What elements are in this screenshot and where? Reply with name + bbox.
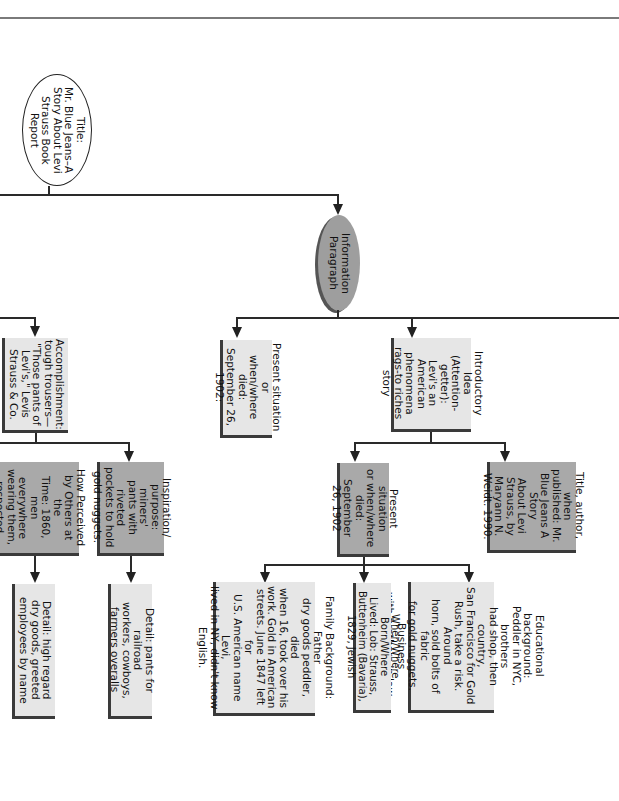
detail-high-regard-text: Detail: high regard dry goods, greeted e… (18, 597, 53, 704)
educational-background-box: Educational background: Peddler in NYC, … (408, 582, 494, 713)
connector (354, 442, 506, 444)
arrow-down-icon (232, 327, 242, 338)
introductory-idea-box: Introductory Idea (Attention-getter): Le… (391, 338, 471, 432)
present-situation-died-box: Present situation or when/where died: Se… (220, 340, 272, 438)
family-background-text: Family Background: Father dry goods pedd… (197, 585, 335, 710)
detail-railroad-text: Detail: pants for railroad workers, cowb… (109, 587, 155, 713)
inspiration-text: Inspiration/ purpose: miners' pants with… (92, 465, 173, 550)
present-situation-box-2: Present situation or when/where died: Se… (337, 463, 389, 557)
arrow-down-icon (500, 451, 510, 462)
inspiration-box: Inspiration/ purpose: miners' pants with… (97, 462, 164, 556)
connector (0, 442, 130, 444)
arrow-down-icon (407, 327, 417, 338)
arrow-down-icon (350, 451, 360, 462)
connector (0, 194, 339, 196)
detail-high-regard-box: Detail: high regard dry goods, greeted e… (12, 584, 55, 719)
detail-railroad-box: Detail: pants for railroad workers, cowb… (108, 584, 152, 719)
arrow-down-icon (30, 326, 40, 337)
page-top-rule (0, 17, 619, 19)
information-paragraph-oval: Information Paragraph (318, 215, 360, 311)
arrow-down-icon (124, 451, 134, 462)
born-lived-text: When/Where Born/Where Lived: Lob: Straus… (346, 586, 401, 707)
how-perceived-text: How Perceived by Others at the Time: 186… (0, 465, 86, 550)
title-oval-label: Title: Mr. Blue Jeans–A Story About Levi… (28, 87, 86, 174)
how-perceived-box: How Perceived by Others at the Time: 186… (0, 462, 79, 556)
title-author-box: Title, author, when published: Mr. Blue … (487, 462, 576, 553)
family-background-box: Family Background: Father dry goods pedd… (213, 582, 315, 716)
accomplishment-box: Accomplishment: tough trousers— "Those p… (2, 338, 68, 433)
arrow-down-icon (359, 572, 369, 583)
title-oval: Title: Mr. Blue Jeans–A Story About Levi… (22, 74, 92, 186)
connector (236, 317, 619, 319)
connector (264, 564, 470, 566)
born-lived-box: When/Where Born/Where Lived: Lob: Straus… (353, 583, 391, 713)
accomplishment-text: Accomplishment: tough trousers— "Those p… (8, 339, 66, 430)
arrow-down-icon (126, 572, 136, 583)
present-situation-died-text: Present situation or when/where died: Se… (213, 343, 282, 432)
information-paragraph-label: Information Paragraph (328, 233, 351, 294)
introductory-idea-text: Introductory Idea (Attention-getter): Le… (381, 341, 485, 426)
connector (0, 317, 36, 319)
present-situation-text-2: Present situation or when/where died: Se… (330, 466, 399, 551)
arrow-down-icon (30, 572, 40, 583)
title-author-text: Title, author, when published: Mr. Blue … (481, 465, 585, 547)
diagram-canvas: Title: Mr. Blue Jeans–A Story About Levi… (0, 0, 619, 801)
arrow-down-icon (333, 204, 343, 215)
